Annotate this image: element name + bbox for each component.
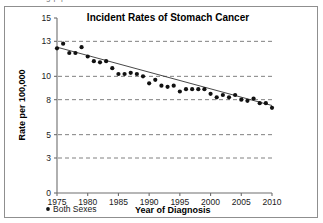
data-point (215, 95, 219, 99)
data-point (227, 95, 231, 99)
data-point (79, 45, 83, 49)
chart-title: Incident Rates of Stomach Cancer (87, 12, 249, 23)
data-point (270, 106, 274, 110)
data-point (147, 81, 151, 85)
data-point (245, 99, 249, 103)
y-tick-group: 0358101315 (42, 13, 57, 198)
data-point (190, 87, 194, 91)
data-point (61, 42, 65, 46)
y-tick-label-3: 3 (46, 153, 51, 163)
stomach-cancer-incidence-chart: 0358101315 19751980198519901995200020052… (0, 0, 323, 223)
y-tick-label-15: 15 (42, 13, 52, 23)
chart-figure: g p p 0358101315 19751980198519901995200… (0, 0, 323, 223)
data-point (208, 92, 212, 96)
data-point (172, 84, 176, 88)
y-tick-label-13: 13 (42, 36, 52, 46)
y-tick-label-10: 10 (42, 71, 52, 81)
y-tick-label-8: 8 (46, 95, 51, 105)
y-tick-label-5: 5 (46, 130, 51, 140)
data-point (73, 51, 77, 55)
data-point (153, 78, 157, 82)
data-point (178, 89, 182, 93)
data-point (67, 51, 71, 55)
data-point (165, 85, 169, 89)
y-axis-title: Rate per 100,000 (17, 69, 27, 140)
data-point (98, 60, 102, 64)
data-point (196, 87, 200, 91)
data-point (92, 59, 96, 63)
x-tick-label-2005: 2005 (232, 197, 251, 207)
data-point (184, 87, 188, 91)
data-point (122, 72, 126, 76)
legend-label: Both Sexes (53, 204, 96, 214)
data-point (55, 46, 59, 50)
data-point (239, 98, 243, 102)
data-point (110, 66, 114, 70)
x-tick-label-2010: 2010 (263, 197, 282, 207)
data-point (86, 54, 90, 58)
data-point (221, 93, 225, 97)
x-axis-title: Year of Diagnosis (135, 205, 211, 215)
data-point (104, 59, 108, 63)
data-point (233, 93, 237, 97)
data-point (258, 101, 262, 105)
data-point (116, 72, 120, 76)
data-point (202, 87, 206, 91)
data-point (141, 74, 145, 78)
data-point (129, 71, 133, 75)
legend-dot-marker (46, 207, 50, 211)
x-tick-label-1985: 1985 (109, 197, 128, 207)
data-point (159, 84, 163, 88)
data-point (264, 101, 268, 105)
data-point (251, 96, 255, 100)
data-point (135, 72, 139, 76)
